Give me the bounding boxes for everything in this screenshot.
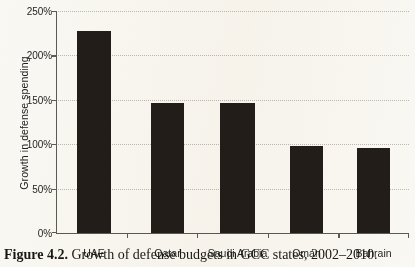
x-axis-line	[56, 233, 409, 234]
x-tick-mark-4	[338, 233, 339, 238]
y-tick-label-50: 50%	[18, 183, 52, 194]
bar-uae[interactable]	[77, 31, 111, 233]
x-tick-mark-2	[197, 233, 198, 238]
plot-area: UAE Qatar Saudi Arabia Oman Bahrain	[56, 11, 409, 233]
y-tick-label-200: 200%	[18, 50, 52, 61]
x-tick-mark-3	[268, 233, 269, 238]
y-tick-mark-150	[52, 100, 57, 101]
y-tick-mark-100	[52, 144, 57, 145]
y-tick-label-150: 150%	[18, 94, 52, 105]
bar-bahrain[interactable]	[357, 148, 390, 233]
y-tick-label-250: 250%	[18, 6, 52, 17]
figure-caption: Figure 4.2. Growth of defense budgets in…	[4, 246, 414, 264]
y-tick-mark-0	[52, 232, 57, 233]
bar-saudi-arabia[interactable]	[220, 103, 255, 233]
y-tick-mark-200	[52, 55, 57, 56]
figure-caption-text: Growth of defense budgets in GCC states,…	[71, 247, 377, 262]
bar-qatar[interactable]	[151, 103, 184, 234]
y-tick-label-100: 100%	[18, 139, 52, 150]
x-tick-mark-5	[408, 233, 409, 238]
gridline-250	[56, 11, 409, 12]
figure-number: Figure 4.2.	[4, 247, 68, 262]
bar-oman[interactable]	[290, 146, 323, 233]
y-tick-label-0: 0%	[18, 228, 52, 239]
figure-container: Growth in defense spending 250% 200% 150…	[0, 0, 415, 267]
x-tick-mark-1	[127, 233, 128, 238]
y-tick-mark-250	[52, 11, 57, 12]
bar-chart: Growth in defense spending 250% 200% 150…	[0, 0, 415, 244]
y-tick-mark-50	[52, 189, 57, 190]
y-axis-tick-labels: 250% 200% 150% 100% 50% 0%	[14, 0, 52, 244]
y-axis-line	[56, 11, 57, 233]
